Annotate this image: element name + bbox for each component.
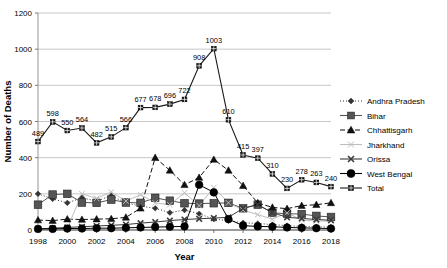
data-point: [225, 215, 233, 223]
x-tick-label: 2014: [264, 237, 282, 246]
data-point: [93, 199, 101, 207]
total-data-label: 908: [193, 53, 205, 62]
x-tick-label: 2004: [117, 237, 135, 246]
x-tick-label: 2012: [234, 237, 252, 246]
data-point: [151, 223, 159, 231]
data-point: [107, 196, 115, 204]
x-tick-label: 2000: [58, 237, 76, 246]
data-point: [195, 181, 203, 189]
legend-label-total: Total: [367, 184, 384, 193]
total-data-label: 278: [296, 167, 308, 176]
data-point: [152, 154, 159, 160]
data-point: [181, 181, 188, 187]
y-tick-label: 200: [19, 190, 33, 199]
data-point: [181, 223, 189, 231]
total-data-label: 482: [90, 130, 102, 139]
data-point: [347, 170, 355, 178]
data-point: [78, 225, 86, 233]
y-tick-label: 0: [28, 226, 33, 235]
data-point: [210, 156, 217, 162]
total-data-label: 722: [178, 86, 190, 95]
x-tick-label: 2006: [146, 237, 164, 246]
y-tick-label: 600: [19, 118, 33, 127]
data-point: [137, 224, 145, 232]
data-point: [122, 224, 130, 232]
total-data-label: 677: [134, 95, 146, 104]
x-tick-label: 2016: [293, 237, 311, 246]
data-point: [348, 112, 355, 119]
data-point: [166, 223, 174, 231]
data-point: [313, 224, 321, 232]
legend-label-west-bengal: West Bengal: [367, 170, 412, 179]
total-data-label: 240: [325, 174, 337, 183]
data-point: [254, 223, 262, 231]
x-tick-label: 2018: [322, 237, 340, 246]
legend-label-bihar: Bihar: [367, 112, 386, 121]
x-tick-label: 2002: [88, 237, 106, 246]
x-tick-label: 2008: [176, 237, 194, 246]
data-point: [210, 199, 218, 207]
total-data-label: 1003: [206, 36, 222, 45]
total-data-label: 696: [164, 91, 176, 100]
total-data-label: 310: [266, 161, 278, 170]
total-data-label: 489: [32, 129, 44, 138]
total-data-label: 564: [76, 115, 88, 124]
data-point: [327, 199, 334, 205]
legend-label-andhra-pradesh: Andhra Pradesh: [367, 97, 425, 106]
data-point: [64, 225, 72, 233]
data-point: [49, 191, 57, 199]
legend-label-orissa: Orissa: [367, 155, 391, 164]
data-point: [196, 211, 202, 217]
legend-label-chhattisgarh: Chhattisgarh: [367, 126, 412, 135]
data-point: [239, 222, 247, 230]
data-point: [35, 191, 41, 197]
data-point: [78, 199, 86, 207]
data-point: [167, 210, 173, 216]
total-data-label: 515: [105, 124, 117, 133]
data-point: [93, 224, 101, 232]
y-tick-label: 800: [19, 81, 33, 90]
legend-label-jharkhand: Jharkhand: [367, 141, 404, 150]
total-data-label: 415: [237, 142, 249, 151]
y-tick-label: 400: [19, 154, 33, 163]
data-point: [210, 189, 218, 197]
data-point: [122, 199, 130, 207]
data-point: [107, 224, 115, 232]
data-point: [65, 200, 71, 206]
y-tick-label: 1000: [14, 45, 32, 54]
data-point: [182, 207, 188, 213]
data-point: [269, 223, 277, 231]
data-point: [64, 190, 72, 198]
total-data-label: 610: [222, 107, 234, 116]
data-point: [122, 214, 129, 220]
total-data-label: 678: [149, 94, 161, 103]
y-axis-title: Number of Deaths: [2, 81, 13, 163]
data-point: [34, 225, 42, 233]
data-point: [283, 224, 291, 232]
y-tick-label: 1200: [14, 9, 32, 18]
total-data-label: 230: [281, 175, 293, 184]
data-point: [298, 224, 306, 232]
data-point: [49, 225, 57, 233]
total-data-label: 263: [310, 169, 322, 178]
x-axis-title: Year: [174, 251, 194, 262]
chart-container: 0200400600800100012001998200020022004200…: [0, 0, 447, 268]
x-tick-label: 1998: [29, 237, 47, 246]
total-data-label: 598: [46, 109, 58, 118]
data-point: [181, 199, 189, 207]
total-data-label: 397: [252, 145, 264, 154]
data-point: [348, 98, 354, 104]
total-data-label: 566: [120, 115, 132, 124]
x-tick-label: 2010: [205, 237, 223, 246]
data-point: [225, 167, 232, 173]
data-point: [34, 201, 42, 209]
line-chart: 0200400600800100012001998200020022004200…: [0, 0, 447, 268]
data-point: [327, 225, 335, 233]
data-point: [152, 206, 158, 212]
total-data-label: 550: [61, 118, 73, 127]
data-point: [166, 197, 174, 205]
